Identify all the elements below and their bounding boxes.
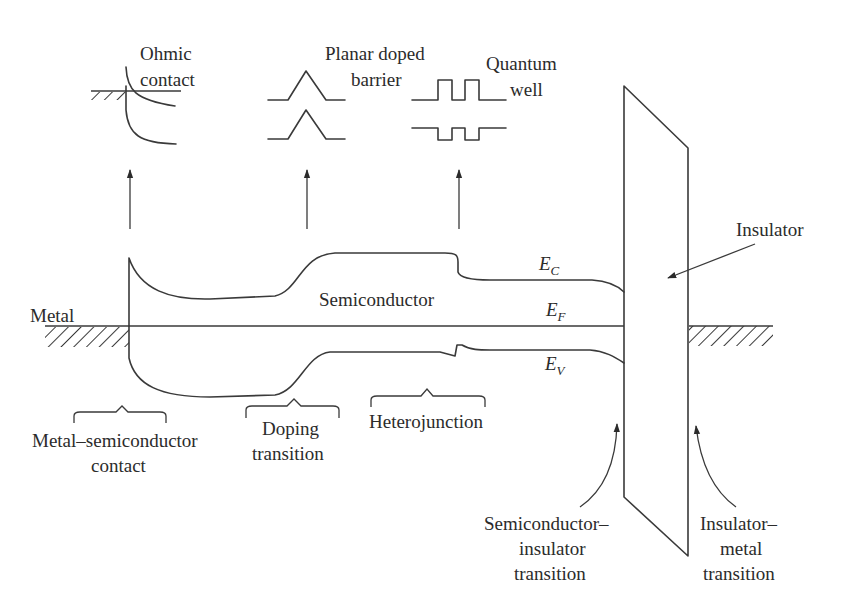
ohmic-contact-inset: Ohmic contact (91, 43, 196, 144)
ef-label: EF (545, 299, 567, 324)
ec-label: EC (538, 253, 560, 278)
ev-label: EV (544, 353, 567, 378)
insulator-label: Insulator (736, 219, 804, 240)
quantum-label-line1: Quantum (486, 53, 557, 74)
planar-label-line1: Planar doped (325, 43, 425, 64)
planar-label-line2: barrier (351, 69, 402, 90)
metal-semi-label-line1: Metal–semiconductor (32, 430, 198, 451)
semiconductor-label: Semiconductor (319, 289, 435, 310)
inset-pointer-arrows (130, 170, 459, 229)
ins-metal-label-line1: Insulator– (700, 513, 778, 534)
ohmic-label-line1: Ohmic (140, 43, 192, 64)
svg-text:EC: EC (538, 253, 560, 278)
insulator-region: Insulator (624, 86, 804, 556)
quantum-label-line2: well (510, 79, 543, 100)
svg-text:EF: EF (545, 299, 567, 324)
band-diagram-figure: Ohmic contact Planar doped barrier Quant… (0, 0, 842, 609)
doping-label-line2: transition (252, 443, 324, 464)
heterojunction-label: Heterojunction (369, 411, 483, 432)
quantum-well-inset: Quantum well (412, 53, 557, 140)
metal-label: Metal (30, 305, 74, 326)
semi-ins-label-line1: Semiconductor– (484, 513, 609, 534)
doping-label-line1: Doping (262, 418, 320, 439)
semi-ins-label-line3: transition (514, 563, 586, 584)
semi-ins-label-line2: insulator (519, 538, 586, 559)
ohmic-label-line2: contact (140, 69, 196, 90)
planar-doped-barrier-inset: Planar doped barrier (268, 43, 425, 139)
ins-metal-label-line3: transition (703, 563, 775, 584)
svg-text:EV: EV (544, 353, 567, 378)
metal-semi-label-line2: contact (91, 455, 147, 476)
ins-metal-label-line2: metal (720, 538, 762, 559)
metal-right-region (689, 326, 773, 346)
